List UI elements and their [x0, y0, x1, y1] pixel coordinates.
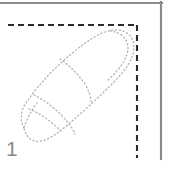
figure-container: 1: [0, 0, 178, 170]
fingernail-path: [108, 31, 128, 80]
finger-side-edge-path: [24, 103, 37, 127]
knuckle-fold-path: [29, 109, 62, 132]
finger-illustration: [21, 30, 134, 141]
step-number-label: 1: [6, 138, 18, 160]
figure-canvas: [0, 0, 178, 170]
finger-outline-path: [21, 30, 134, 141]
finger-crease-upper-path: [60, 59, 91, 102]
